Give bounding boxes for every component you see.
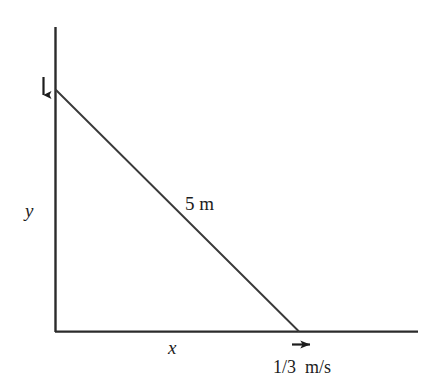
velocity-label: 1/3 m/s xyxy=(273,358,331,376)
figure-canvas: y x 5 m 1/3 m/s xyxy=(0,0,431,392)
x-axis-label: x xyxy=(168,338,176,357)
ladder-diagram-svg xyxy=(0,0,431,392)
ladder-length-label: 5 m xyxy=(185,194,214,213)
ladder-line xyxy=(56,90,299,331)
y-axis-label: y xyxy=(25,201,33,220)
